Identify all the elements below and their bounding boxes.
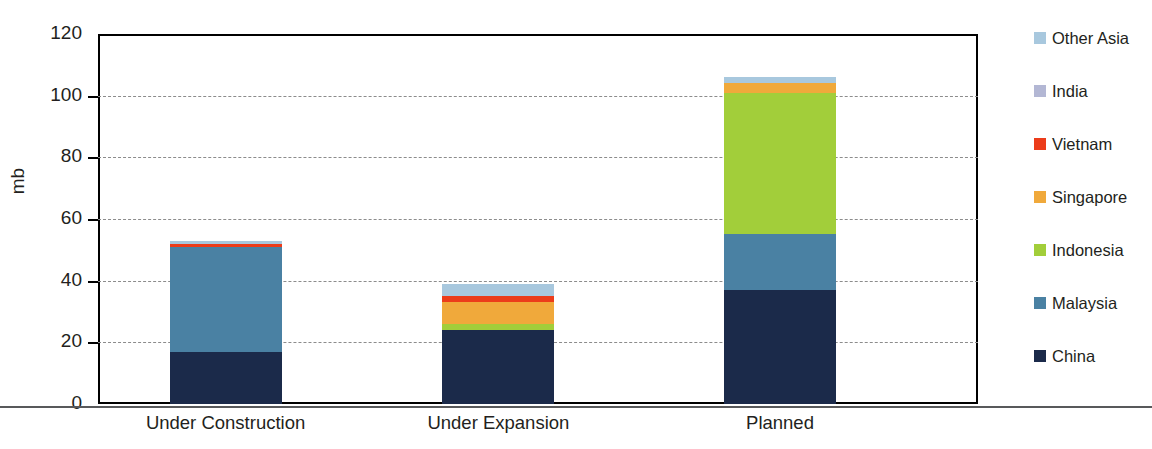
plot-area [98, 34, 978, 404]
bar-segment-china[interactable] [170, 352, 282, 404]
y-axis-title: mb [7, 168, 29, 194]
legend-item-other-asia[interactable]: Other Asia [1034, 30, 1129, 46]
legend-label: Singapore [1052, 189, 1127, 205]
bar-segment-china[interactable] [442, 330, 554, 404]
y-axis-label: 20 [20, 330, 82, 352]
bar-segment-singapore[interactable] [724, 83, 836, 92]
legend-item-india[interactable]: India [1034, 83, 1088, 99]
legend-swatch-icon [1034, 297, 1046, 309]
bar-segment-china[interactable] [724, 290, 836, 404]
legend-item-indonesia[interactable]: Indonesia [1034, 242, 1124, 258]
legend-label: Vietnam [1052, 136, 1112, 152]
legend-swatch-icon [1034, 191, 1046, 203]
y-axis-label: 0 [20, 392, 82, 414]
bar-segment-other-asia[interactable] [442, 284, 554, 296]
legend-swatch-icon [1034, 32, 1046, 44]
bar-under-construction[interactable] [170, 34, 282, 404]
bar-segment-vietnam[interactable] [170, 244, 282, 247]
legend-item-china[interactable]: China [1034, 348, 1095, 364]
bar-segment-indonesia[interactable] [724, 93, 836, 235]
legend-label: Malaysia [1052, 295, 1117, 311]
legend-label: India [1052, 83, 1088, 99]
legend-swatch-icon [1034, 138, 1046, 150]
x-axis-label: Under Expansion [348, 412, 648, 434]
x-axis-label: Planned [630, 412, 930, 434]
y-axis-label: 60 [20, 207, 82, 229]
x-axis-label: Under Construction [76, 412, 376, 434]
bar-segment-malaysia[interactable] [170, 247, 282, 352]
bar-segment-vietnam[interactable] [442, 296, 554, 302]
legend-swatch-icon [1034, 350, 1046, 362]
y-axis-label: 80 [20, 145, 82, 167]
legend-label: China [1052, 348, 1095, 364]
bar-segment-malaysia[interactable] [724, 234, 836, 290]
y-axis-label: 100 [20, 84, 82, 106]
y-axis-label: 120 [20, 22, 82, 44]
bar-segment-indonesia[interactable] [442, 324, 554, 330]
legend-item-malaysia[interactable]: Malaysia [1034, 295, 1117, 311]
y-axis-label: 40 [20, 269, 82, 291]
bottom-rule [0, 406, 1152, 408]
legend-label: Other Asia [1052, 30, 1129, 46]
bar-segment-other-asia[interactable] [170, 241, 282, 244]
bar-segment-other-asia[interactable] [724, 77, 836, 83]
bar-under-expansion[interactable] [442, 34, 554, 404]
legend-item-vietnam[interactable]: Vietnam [1034, 136, 1112, 152]
legend-label: Indonesia [1052, 242, 1124, 258]
bar-planned[interactable] [724, 34, 836, 404]
legend-item-singapore[interactable]: Singapore [1034, 189, 1127, 205]
legend-swatch-icon [1034, 244, 1046, 256]
bar-segment-singapore[interactable] [442, 302, 554, 324]
legend-swatch-icon [1034, 85, 1046, 97]
